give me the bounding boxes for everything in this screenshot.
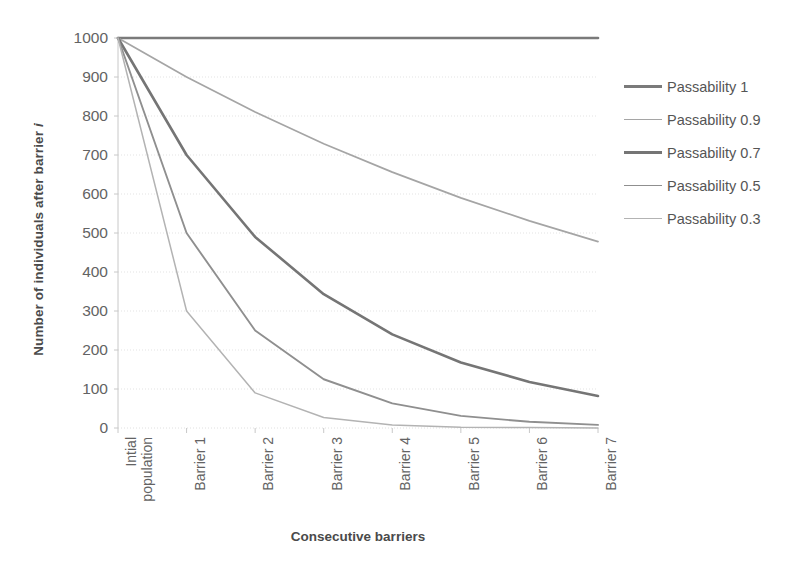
x-tick-label: Barrier 2 bbox=[261, 437, 277, 575]
chart-figure: Number of individuals after barrier i 10… bbox=[0, 0, 792, 575]
x-tick-label: Barrier 3 bbox=[330, 437, 346, 575]
x-tick-label: Intial population bbox=[124, 437, 155, 575]
y-tick-label: 500 bbox=[38, 225, 108, 241]
series-line bbox=[118, 38, 598, 242]
legend-label: Passability 0.7 bbox=[667, 145, 761, 161]
legend-line-swatch bbox=[624, 151, 662, 154]
y-tick-label: 100 bbox=[38, 381, 108, 397]
legend-item[interactable]: Passability 0.3 bbox=[624, 202, 792, 235]
legend-line-swatch bbox=[624, 119, 662, 121]
y-tick-label: 600 bbox=[38, 186, 108, 202]
plot-area bbox=[118, 38, 598, 428]
y-tick-label: 800 bbox=[38, 108, 108, 124]
y-axis-title-italic-i: i bbox=[31, 123, 46, 127]
legend-label: Passability 0.3 bbox=[667, 211, 761, 227]
x-tick-label: Barrier 6 bbox=[535, 437, 551, 575]
chart-legend: Passability 1Passability 0.9Passability … bbox=[624, 70, 792, 235]
x-axis-title: Consecutive barriers bbox=[118, 529, 598, 544]
plot-svg bbox=[118, 38, 598, 428]
y-tick-label: 900 bbox=[38, 69, 108, 85]
legend-item[interactable]: Passability 0.9 bbox=[624, 103, 792, 136]
x-tick-label: Barrier 1 bbox=[193, 437, 209, 575]
legend-label: Passability 0.5 bbox=[667, 178, 761, 194]
legend-item[interactable]: Passability 1 bbox=[624, 70, 792, 103]
y-tick-label: 400 bbox=[38, 264, 108, 280]
legend-line-swatch bbox=[624, 185, 662, 187]
legend-item[interactable]: Passability 0.7 bbox=[624, 136, 792, 169]
series-line bbox=[118, 38, 598, 396]
x-tick-label: Barrier 5 bbox=[467, 437, 483, 575]
y-tick-label: 300 bbox=[38, 303, 108, 319]
legend-item[interactable]: Passability 0.5 bbox=[624, 169, 792, 202]
legend-line-swatch bbox=[624, 85, 662, 88]
legend-label: Passability 1 bbox=[667, 79, 748, 95]
y-tick-label: 200 bbox=[38, 342, 108, 358]
x-tick-label: Barrier 4 bbox=[398, 437, 414, 575]
series-line bbox=[118, 38, 598, 425]
y-tick-label: 0 bbox=[38, 420, 108, 436]
y-tick-label: 700 bbox=[38, 147, 108, 163]
x-tick-label: Barrier 7 bbox=[604, 437, 620, 575]
legend-label: Passability 0.9 bbox=[667, 112, 761, 128]
y-tick-label: 1000 bbox=[38, 30, 108, 46]
legend-line-swatch bbox=[624, 218, 662, 220]
